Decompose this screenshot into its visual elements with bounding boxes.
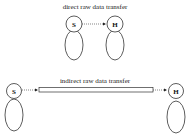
transfer-channel-bar <box>39 88 153 93</box>
source-body-ellipse <box>5 99 23 131</box>
direct-transfer-group: direct raw data transfer S H <box>63 3 128 60</box>
indirect-target-node: H <box>167 84 185 134</box>
indirect-transfer-title: indirect raw data transfer <box>60 77 131 85</box>
indirect-source-node: S <box>5 84 23 132</box>
indirect-transfer-group: indirect raw data transfer S H <box>5 77 185 133</box>
source-body-ellipse <box>65 30 83 60</box>
diagram-canvas: direct raw data transfer S H indirect ra… <box>0 0 191 137</box>
direct-target-node: H <box>106 16 124 60</box>
source-label: S <box>72 21 76 29</box>
target-body-ellipse <box>106 30 124 60</box>
direct-transfer-title: direct raw data transfer <box>63 3 128 11</box>
direct-source-node: S <box>65 16 83 60</box>
source-label: S <box>12 88 16 96</box>
target-body-ellipse <box>167 101 185 133</box>
target-label: H <box>173 88 179 96</box>
target-label: H <box>112 21 118 29</box>
